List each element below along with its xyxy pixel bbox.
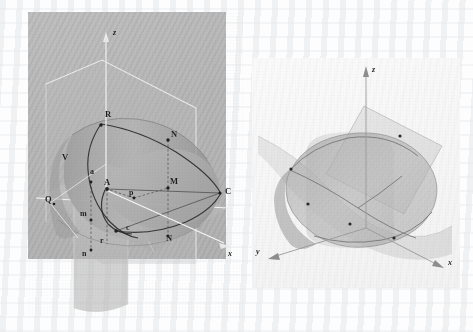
label-V: V (62, 153, 68, 162)
right-x-axis-label: x (448, 259, 452, 267)
label-m: m (80, 210, 87, 218)
label-n: n (82, 250, 86, 258)
label-N-upper: N (171, 130, 177, 139)
label-p: p (129, 189, 133, 197)
label-N-lower: N (166, 234, 172, 243)
left-figure: R N V a A M C Q p m c N r n z x (28, 12, 243, 317)
left-x-axis-label: x (228, 250, 232, 258)
right-figure-graphics (252, 58, 460, 288)
label-r: r (100, 237, 104, 245)
label-R: R (105, 110, 111, 119)
label-Q: Q (45, 195, 52, 204)
label-c: c (126, 224, 130, 232)
right-figure: z y x (252, 58, 460, 288)
right-y-axis-label: y (256, 248, 260, 256)
label-A: A (104, 178, 110, 187)
left-figure-graphics (28, 12, 243, 317)
right-z-axis-label: z (372, 66, 375, 74)
left-z-axis-label: z (113, 29, 116, 37)
label-M: M (170, 177, 178, 186)
label-a: a (90, 168, 94, 176)
label-C: C (225, 187, 231, 196)
